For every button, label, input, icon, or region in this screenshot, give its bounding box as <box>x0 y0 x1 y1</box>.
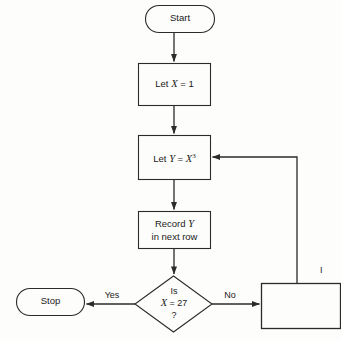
edge-increment-loop-to-lety <box>213 157 298 284</box>
increment-process-shape <box>262 284 341 329</box>
stop-terminator-shape <box>17 289 85 316</box>
flowchart-graphics <box>0 0 341 341</box>
let-x-process-shape <box>139 64 211 106</box>
record-process-shape <box>139 212 211 249</box>
increment-clipped-label: I <box>320 265 341 275</box>
decision-diamond-shape <box>135 276 212 332</box>
start-terminator-shape <box>146 6 215 33</box>
flowchart-canvas: Start Let X = 1 Let Y = X3 Record Yin ne… <box>0 0 341 341</box>
let-y-process-shape <box>139 136 211 180</box>
